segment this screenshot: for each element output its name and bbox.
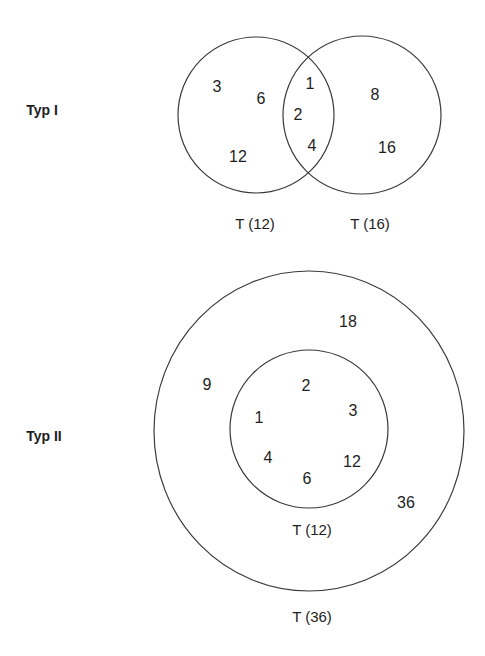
- typ2-inner-item: 2: [302, 377, 311, 394]
- typ2-inner-item: 3: [349, 402, 358, 419]
- typ1-left-circle-label: T (12): [235, 215, 275, 232]
- typ1-label: Typ I: [26, 102, 58, 118]
- typ2-outer-item: 18: [339, 313, 357, 330]
- typ1-left-item: 3: [213, 78, 222, 95]
- typ1-diagram: Typ I 3 6 12 1 2 4 8 16 T (12) T (16): [26, 36, 441, 232]
- typ1-right-circle: [283, 36, 441, 194]
- typ2-inner-item: 6: [303, 470, 312, 487]
- typ2-inner-circle-label: T (12): [292, 521, 332, 538]
- typ2-inner-item: 12: [343, 453, 361, 470]
- typ1-left-item: 12: [229, 148, 247, 165]
- typ1-intersection-item: 2: [294, 106, 303, 123]
- typ2-diagram: Typ II 18 9 36 2 1 3 4 12 6 T (12) T (36…: [26, 271, 464, 625]
- typ2-inner-item: 1: [255, 409, 264, 426]
- divisor-venn-diagrams: Typ I 3 6 12 1 2 4 8 16 T (12) T (16) Ty…: [0, 0, 485, 656]
- typ1-right-circle-label: T (16): [350, 215, 390, 232]
- typ2-outer-item: 36: [397, 494, 415, 511]
- typ1-left-circle: [178, 37, 334, 193]
- typ2-inner-item: 4: [264, 449, 273, 466]
- typ1-left-item: 6: [257, 90, 266, 107]
- typ1-intersection-item: 1: [306, 75, 315, 92]
- typ2-label: Typ II: [26, 428, 62, 444]
- typ1-right-item: 16: [378, 139, 396, 156]
- typ1-right-item: 8: [371, 86, 380, 103]
- typ1-intersection-item: 4: [308, 137, 317, 154]
- typ2-outer-circle-label: T (36): [292, 608, 332, 625]
- typ2-outer-circle: [154, 271, 464, 591]
- typ2-outer-item: 9: [203, 376, 212, 393]
